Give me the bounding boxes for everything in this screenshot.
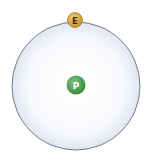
proton-label: P xyxy=(73,81,80,91)
proton-nucleus: P xyxy=(67,76,86,95)
electron: E xyxy=(68,13,83,28)
atom-diagram: P E xyxy=(0,0,149,159)
electron-label: E xyxy=(72,16,78,26)
